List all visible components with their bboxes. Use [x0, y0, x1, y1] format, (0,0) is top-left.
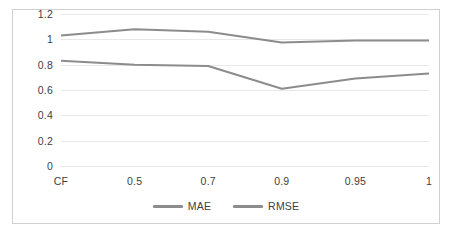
plot-area: 1.210.80.60.40.20 CF0.50.70.90.951 MAERM… — [13, 10, 439, 223]
x-axis-tick-label: CF — [54, 175, 68, 187]
x-axis-tick-label: 0.5 — [127, 175, 142, 187]
x-axis-tick-label: 1 — [426, 175, 432, 187]
y-axis-tick-label: 0.8 — [38, 59, 53, 71]
x-axis-tick-label: 0.95 — [345, 175, 366, 187]
y-axis-tick-label: 0.4 — [38, 109, 53, 121]
y-axis-tick-label: 0 — [47, 160, 53, 172]
y-axis-tick-label: 0.6 — [38, 84, 53, 96]
y-axis-tick-label: 1.2 — [38, 8, 53, 20]
chart-container: 1.210.80.60.40.20 CF0.50.70.90.951 MAERM… — [12, 9, 440, 224]
chart-legend: MAERMSE — [13, 196, 439, 216]
y-axis: 1.210.80.60.40.20 — [13, 14, 57, 166]
x-axis-tick-label: 0.7 — [201, 175, 216, 187]
legend-line-icon — [233, 205, 263, 208]
series-line-rmse — [61, 29, 429, 42]
y-axis-tick-label: 0.2 — [38, 135, 53, 147]
legend-item-mae[interactable]: MAE — [153, 200, 211, 212]
gridlines-and-series — [61, 14, 429, 166]
legend-label: RMSE — [268, 200, 299, 212]
legend-line-icon — [153, 205, 183, 208]
legend-label: MAE — [188, 200, 211, 212]
x-axis-tick-label: 0.9 — [274, 175, 289, 187]
y-axis-tick-label: 1 — [47, 33, 53, 45]
legend-item-rmse[interactable]: RMSE — [233, 200, 299, 212]
gridline — [61, 166, 429, 167]
series-lines — [61, 14, 429, 166]
series-line-mae — [61, 61, 429, 89]
x-axis: CF0.50.70.90.951 — [61, 170, 429, 192]
